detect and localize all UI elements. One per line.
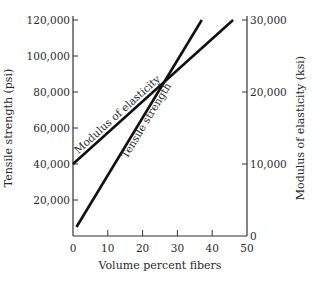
- y-tick-label-left: 120,000: [27, 14, 70, 26]
- series-line-modulus-of-elasticity: [73, 20, 233, 164]
- y-tick-label-right: 0: [250, 230, 257, 242]
- x-tick-label: 50: [240, 242, 253, 254]
- y-axis-title-right: Modulus of elasticity (ksi): [294, 56, 307, 200]
- ticks: 0102030405020,00040,00060,00080,000100,0…: [27, 14, 287, 254]
- x-tick-label: 20: [136, 242, 149, 254]
- x-tick-label: 40: [206, 242, 219, 254]
- y-tick-label-left: 80,000: [33, 86, 70, 98]
- x-tick-label: 30: [171, 242, 184, 254]
- y-axis-title-left: Tensile strength (psi): [2, 69, 15, 188]
- y-tick-label-left: 20,000: [33, 194, 70, 206]
- y-tick-label-left: 40,000: [33, 158, 70, 170]
- y-tick-label-right: 10,000: [250, 158, 287, 170]
- x-tick-label: 0: [70, 242, 77, 254]
- y-tick-label-left: 100,000: [27, 50, 70, 62]
- x-tick-label: 10: [101, 242, 114, 254]
- y-tick-label-right: 30,000: [250, 14, 287, 26]
- chart: 0102030405020,00040,00060,00080,000100,0…: [0, 0, 317, 285]
- x-axis-title: Volume percent fibers: [98, 259, 222, 272]
- y-tick-label-left: 60,000: [33, 122, 70, 134]
- y-tick-label-right: 20,000: [250, 86, 287, 98]
